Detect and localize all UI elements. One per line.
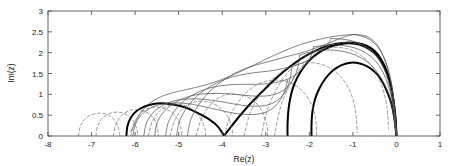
x-tick-label: -7 <box>88 140 96 149</box>
plot-border <box>48 11 440 136</box>
curve-thin-family-7 <box>131 35 366 132</box>
curve-dashed-left-arc-1 <box>78 113 119 136</box>
curve-thin-descend-right-3 <box>331 39 396 137</box>
y-axis-title: Im(z) <box>6 63 16 83</box>
curve-thin-family-5 <box>176 39 331 137</box>
y-tick-label: 2.5 <box>32 28 44 37</box>
x-tick-label: -2 <box>306 140 314 149</box>
axes-layer <box>48 11 440 136</box>
x-tick-label: -6 <box>132 140 140 149</box>
y-tick-label: 0 <box>39 132 44 141</box>
y-tick-label: 3 <box>39 7 44 16</box>
y-tick-label: 1 <box>39 90 44 99</box>
curve-layer <box>78 34 396 136</box>
stability-region-figure: -8-7-6-5-4-3-2-10100.511.522.53 Re(z) Im… <box>0 0 464 166</box>
x-tick-label: -8 <box>44 140 52 149</box>
y-tick-label: 1.5 <box>32 70 44 79</box>
plot-canvas: -8-7-6-5-4-3-2-10100.511.522.53 Re(z) Im… <box>0 0 464 166</box>
x-axis-title: Re(z) <box>234 154 255 164</box>
curve-thin-family-3 <box>155 55 300 136</box>
y-tick-label: 0.5 <box>32 111 44 120</box>
curve-dashed-right-arc-1 <box>224 80 316 136</box>
x-tick-label: 0 <box>394 140 399 149</box>
x-tick-label: -3 <box>262 140 270 149</box>
x-tick-label: 1 <box>438 140 443 149</box>
x-tick-label: -1 <box>349 140 357 149</box>
x-tick-label: -5 <box>175 140 183 149</box>
y-tick-label: 2 <box>39 49 44 58</box>
x-tick-label: -4 <box>219 140 227 149</box>
axis-title-layer: Re(z) Im(z) <box>6 63 255 164</box>
